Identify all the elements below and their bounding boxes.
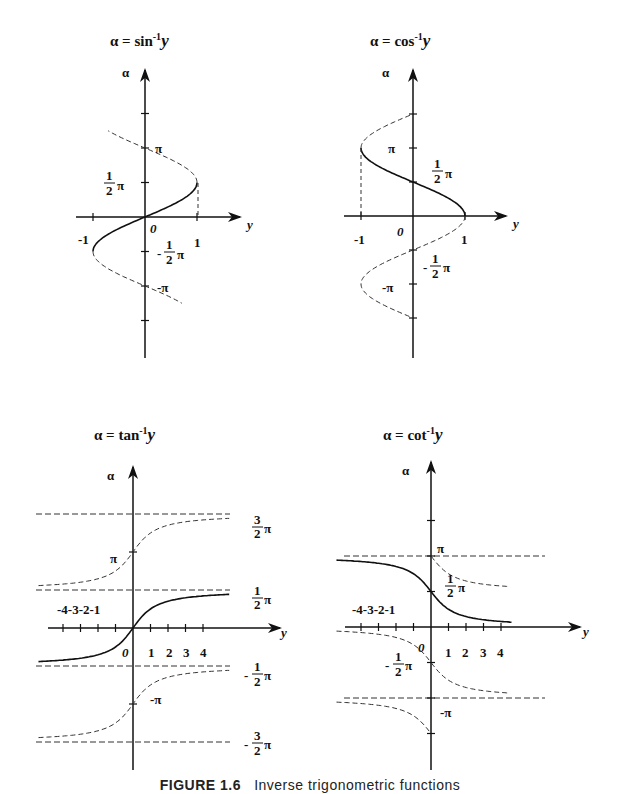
neg-half-pi-label: - 1 2 π: [244, 659, 271, 689]
panel-arccos: α = cos-1y α y 0 -1 1 π 1 2 π - 1 2 π -π: [344, 31, 519, 358]
svg-text:π: π: [177, 247, 184, 262]
svg-text:1: 1: [447, 571, 454, 586]
alpha-axis-label: α: [402, 463, 410, 478]
neg-half-pi-label: - 1 2 π: [157, 237, 184, 267]
y-axis-label: y: [511, 216, 519, 231]
svg-text:π: π: [458, 580, 465, 595]
svg-text:-: -: [244, 737, 248, 752]
origin-label: 0: [397, 224, 404, 239]
svg-text:2: 2: [254, 743, 261, 758]
svg-text:2: 2: [432, 266, 439, 281]
neg-pi-label: -π: [157, 280, 168, 295]
svg-text:2: 2: [254, 674, 261, 689]
caption-text: Inverse trigonometric functions: [254, 777, 460, 793]
svg-text:-: -: [157, 246, 161, 261]
caption-label: FIGURE 1.6: [160, 777, 241, 793]
neg-x-tick-labels: -4-3-2-1: [57, 602, 100, 617]
svg-text:1: 1: [434, 156, 441, 171]
panel-arccot: α = cot-1y α y -4-3-2-1 0 1 2 3 4 π 1 2 …: [337, 425, 590, 770]
svg-text:1: 1: [254, 583, 261, 598]
figure-caption: FIGURE 1.6 Inverse trigonometric functio…: [0, 777, 620, 793]
arccos-title: α = cos-1y: [370, 31, 431, 50]
arctan-title: α = tan-1y: [94, 425, 156, 444]
origin-label: 0: [122, 645, 129, 660]
x-tick-label: 1: [148, 645, 155, 660]
x-tick-label: 2: [462, 645, 469, 660]
x-tick-label: 2: [166, 645, 173, 660]
svg-text:1: 1: [395, 649, 402, 664]
svg-text:1: 1: [432, 251, 439, 266]
svg-text:-: -: [385, 658, 389, 673]
x-tick-label: 3: [183, 645, 190, 660]
svg-text:π: π: [264, 521, 271, 536]
neg-half-pi-label: - 1 2 π: [423, 251, 450, 281]
neg-pi-label: -π: [150, 692, 161, 707]
alpha-axis-label: α: [382, 65, 390, 80]
x-tick-label: 1: [194, 235, 201, 250]
svg-text:1: 1: [166, 237, 173, 252]
neg-pi-label: -π: [440, 705, 451, 720]
svg-text:-: -: [423, 260, 427, 275]
neg-pi-label: -π: [382, 280, 393, 295]
x-tick-label: 1: [445, 645, 452, 660]
arcsin-title: α = sin-1y: [110, 31, 169, 50]
pi-label: π: [110, 551, 117, 566]
svg-text:2: 2: [447, 585, 454, 600]
x-tick-label: -1: [354, 232, 365, 247]
pi-label: π: [437, 541, 444, 556]
x-tick-label: 1: [461, 232, 468, 247]
svg-text:2: 2: [254, 597, 261, 612]
arccot-title: α = cot-1y: [383, 425, 443, 444]
half-pi-label: 1 2 π: [252, 583, 271, 612]
x-tick-label: -1: [78, 232, 89, 247]
inverse-trig-figure: α = sin-1y α y 0 -1 1 π 1 2 π - 1 2 π -π…: [0, 0, 620, 794]
svg-text:π: π: [443, 260, 450, 275]
origin-label: 0: [418, 640, 425, 655]
svg-text:2: 2: [395, 664, 402, 679]
svg-text:1: 1: [254, 659, 261, 674]
half-pi-label: 1 2 π: [104, 168, 124, 198]
half-pi-label: 1 2 π: [432, 156, 452, 186]
svg-text:3: 3: [254, 728, 261, 743]
svg-text:-: -: [244, 668, 248, 683]
svg-text:π: π: [117, 178, 124, 193]
svg-text:2: 2: [106, 183, 113, 198]
x-tick-label: 3: [480, 645, 487, 660]
y-axis-label: y: [279, 625, 287, 640]
svg-text:π: π: [264, 668, 271, 683]
neg-three-half-pi-label: - 3 2 π: [244, 728, 271, 758]
svg-text:2: 2: [254, 526, 261, 541]
pi-label: π: [388, 141, 395, 156]
neg-x-tick-labels: -4-3-2-1: [352, 602, 395, 617]
svg-text:2: 2: [434, 171, 441, 186]
alpha-axis-label: α: [122, 65, 130, 80]
svg-text:3: 3: [254, 512, 261, 527]
neg-half-pi-label: - 1 2 π: [385, 649, 412, 679]
y-axis-label: y: [245, 217, 253, 232]
y-axis-label: y: [581, 624, 589, 639]
svg-text:π: π: [264, 592, 271, 607]
svg-text:π: π: [264, 737, 271, 752]
svg-text:1: 1: [106, 168, 113, 183]
x-tick-label: 4: [200, 645, 207, 660]
svg-text:2: 2: [166, 252, 173, 267]
half-pi-label: 1 2 π: [445, 571, 465, 600]
three-half-pi-label: 3 2 π: [252, 512, 271, 541]
alpha-axis-label: α: [107, 468, 115, 483]
origin-label: 0: [150, 221, 157, 236]
panel-arctan: α = tan-1y α y -4-3-2-1 0 1 2 3 4 π -π 3…: [36, 425, 287, 770]
panel-arcsin: α = sin-1y α y 0 -1 1 π 1 2 π - 1 2 π -π: [76, 31, 253, 358]
svg-text:π: π: [405, 658, 412, 673]
svg-text:π: π: [445, 166, 452, 181]
pi-label: π: [155, 141, 162, 156]
x-tick-label: 4: [497, 645, 504, 660]
